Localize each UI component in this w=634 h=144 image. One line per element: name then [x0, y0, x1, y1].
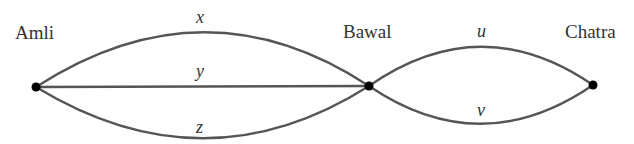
node-label-chatra: Chatra [565, 21, 616, 42]
edge-y [36, 86, 369, 87]
edge-label-x: x [195, 7, 204, 27]
edge-label-y: y [194, 61, 204, 81]
edge-label-z: z [195, 117, 203, 137]
node-label-amli: Amli [15, 22, 54, 43]
route-graph: Amli Bawal Chatra x y z u v [0, 0, 634, 144]
node-bawal [365, 82, 374, 91]
edge-label-v: v [477, 100, 485, 120]
edge-label-u: u [477, 21, 486, 41]
node-amli [32, 83, 41, 92]
edge-u [369, 47, 593, 86]
node-chatra [589, 81, 598, 90]
node-label-bawal: Bawal [343, 21, 392, 42]
